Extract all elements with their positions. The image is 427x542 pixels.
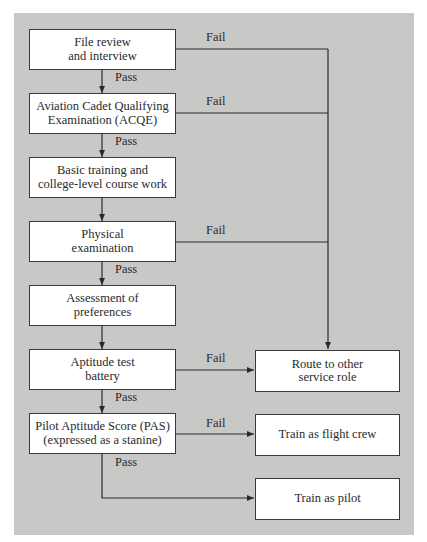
edge-label-pass: Pass bbox=[115, 263, 137, 276]
step-label: Aviation Cadet Qualifying Examination (A… bbox=[36, 100, 168, 127]
outcome-route-other-service: Route to other service role bbox=[255, 350, 400, 392]
edge-label-fail: Fail bbox=[206, 417, 225, 430]
step-label: Aptitude test battery bbox=[70, 356, 134, 383]
step-label: Pilot Aptitude Score (PAS) (expressed as… bbox=[35, 420, 170, 447]
edge-label-pass: Pass bbox=[115, 456, 137, 469]
step-label: Physical examination bbox=[72, 228, 134, 255]
step-file-review: File review and interview bbox=[29, 29, 176, 70]
outcome-train-pilot: Train as pilot bbox=[255, 478, 400, 520]
step-assessment-of-preferences: Assessment of preferences bbox=[29, 285, 176, 326]
outcome-label: Route to other service role bbox=[292, 358, 364, 385]
step-basic-training: Basic training and college-level course … bbox=[29, 157, 176, 198]
step-label: Basic training and college-level course … bbox=[38, 164, 167, 191]
outcome-label: Train as flight crew bbox=[279, 428, 377, 442]
edge-label-pass: Pass bbox=[115, 391, 137, 404]
edge-label-fail: Fail bbox=[206, 31, 225, 44]
outcome-train-flight-crew: Train as flight crew bbox=[255, 414, 400, 456]
edge-label-fail: Fail bbox=[206, 95, 225, 108]
step-aptitude-test-battery: Aptitude test battery bbox=[29, 349, 176, 390]
connector-lines bbox=[0, 0, 427, 542]
step-physical-examination: Physical examination bbox=[29, 221, 176, 262]
edge-label-fail: Fail bbox=[206, 224, 225, 237]
step-label: File review and interview bbox=[68, 36, 136, 63]
edge-label-fail: Fail bbox=[206, 352, 225, 365]
edge-label-pass: Pass bbox=[115, 71, 137, 84]
step-pilot-aptitude-score: Pilot Aptitude Score (PAS) (expressed as… bbox=[29, 413, 176, 454]
edge-label-pass: Pass bbox=[115, 135, 137, 148]
step-label: Assessment of preferences bbox=[66, 292, 139, 319]
step-acqe: Aviation Cadet Qualifying Examination (A… bbox=[29, 93, 176, 134]
outcome-label: Train as pilot bbox=[294, 492, 360, 506]
